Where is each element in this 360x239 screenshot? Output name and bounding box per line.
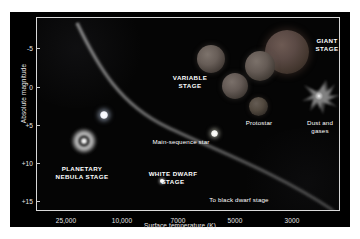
ytick-mark-0	[36, 48, 40, 49]
ytick-label-plus10: +10	[10, 160, 33, 167]
ytick-mark-1	[36, 87, 40, 88]
x-axis-title: Surface temperature (K)	[10, 222, 350, 229]
main-sequence-star-point	[211, 130, 218, 137]
ytick-label-minus5: -5	[10, 45, 33, 52]
ytick-label-plus15: +15	[10, 198, 33, 205]
planetary-nebula-ring	[69, 126, 99, 156]
hot-blue-star-point	[100, 111, 108, 119]
ytick-mark-2	[36, 125, 40, 126]
annotation-main-sequence-star: Main-sequence star	[145, 138, 217, 146]
annotation-giant-stage: GIANT STAGE	[305, 37, 340, 52]
variable-star-sphere-3	[245, 51, 275, 81]
protostar-sphere	[249, 97, 268, 116]
annotation-planetary-nebula-stage: PLANETARY NEBULA STAGE	[44, 165, 120, 180]
ytick-mark-4	[36, 201, 40, 202]
hr-diagram-figure: GIANT STAGE VARIABLE STAGE Protostar Dus…	[10, 12, 350, 227]
annotation-white-dwarf-stage: WHITE DWARF STAGE	[142, 170, 204, 185]
dust-and-gases-nebula	[297, 76, 340, 120]
annotation-dust-and-gases: Dust and gases	[295, 119, 340, 134]
ytick-mark-3	[36, 163, 40, 164]
variable-star-sphere-1	[197, 45, 225, 73]
variable-star-sphere-2	[222, 73, 248, 99]
y-axis-title: Absolute magnitude	[20, 59, 27, 129]
annotation-protostar: Protostar	[233, 119, 285, 127]
annotation-variable-stage: VARIABLE STAGE	[164, 74, 216, 89]
plot-area: GIANT STAGE VARIABLE STAGE Protostar Dus…	[36, 17, 340, 211]
annotation-to-black-dwarf-stage: To black dwarf stage	[197, 196, 281, 204]
